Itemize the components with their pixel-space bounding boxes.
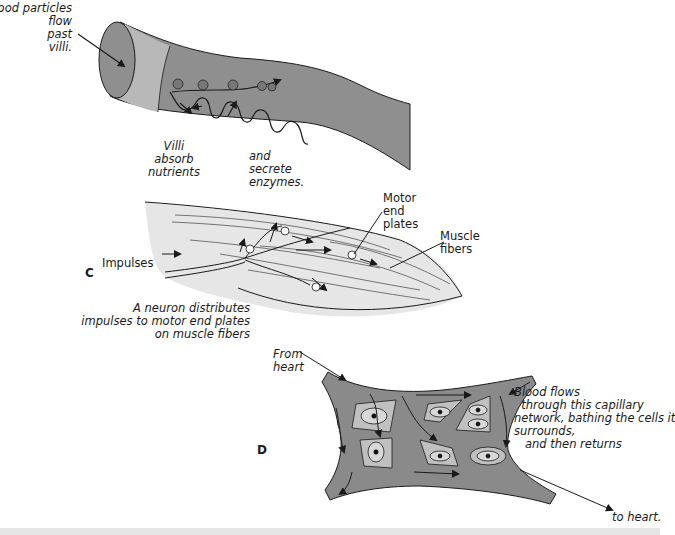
- label-villi-absorb: Villi absorb nutrients: [148, 140, 200, 179]
- label-to-heart: to heart.: [612, 511, 662, 524]
- label-impulses: Impulses: [102, 257, 153, 270]
- label-blood-flows: Blood flows through this capillary netwo…: [514, 386, 675, 451]
- label-food-particles: Food particles flow past villi.: [0, 2, 72, 54]
- panel-letter-d: D: [257, 443, 267, 457]
- label-from-heart: From heart: [273, 348, 304, 374]
- caption-neuron: A neuron distributes impulses to motor e…: [81, 302, 250, 341]
- intestine-illustration: [78, 22, 410, 170]
- panel-letter-c: C: [85, 266, 94, 280]
- bottom-band: [0, 528, 660, 535]
- label-muscle-fibers: Muscle fibers: [440, 230, 480, 256]
- label-motor-end-plates: Motor end plates: [383, 192, 418, 231]
- intestine-opening: [99, 22, 135, 98]
- label-secrete-enzymes: and secrete enzymes.: [249, 150, 304, 189]
